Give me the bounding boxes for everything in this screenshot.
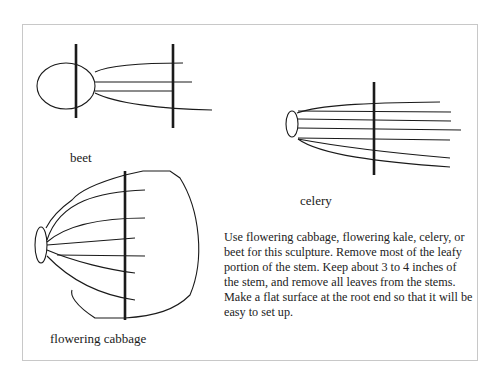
flowering-cabbage-drawing [35, 171, 199, 320]
flowering-cabbage-label: flowering cabbage [50, 331, 146, 347]
instructions-text: Use flowering cabbage, flowering kale, c… [224, 230, 474, 320]
vegetable-diagrams [0, 0, 496, 378]
celery-label: celery [300, 193, 332, 209]
celery-drawing [286, 82, 461, 175]
beet-label: beet [70, 150, 92, 166]
beet-drawing [37, 44, 212, 128]
